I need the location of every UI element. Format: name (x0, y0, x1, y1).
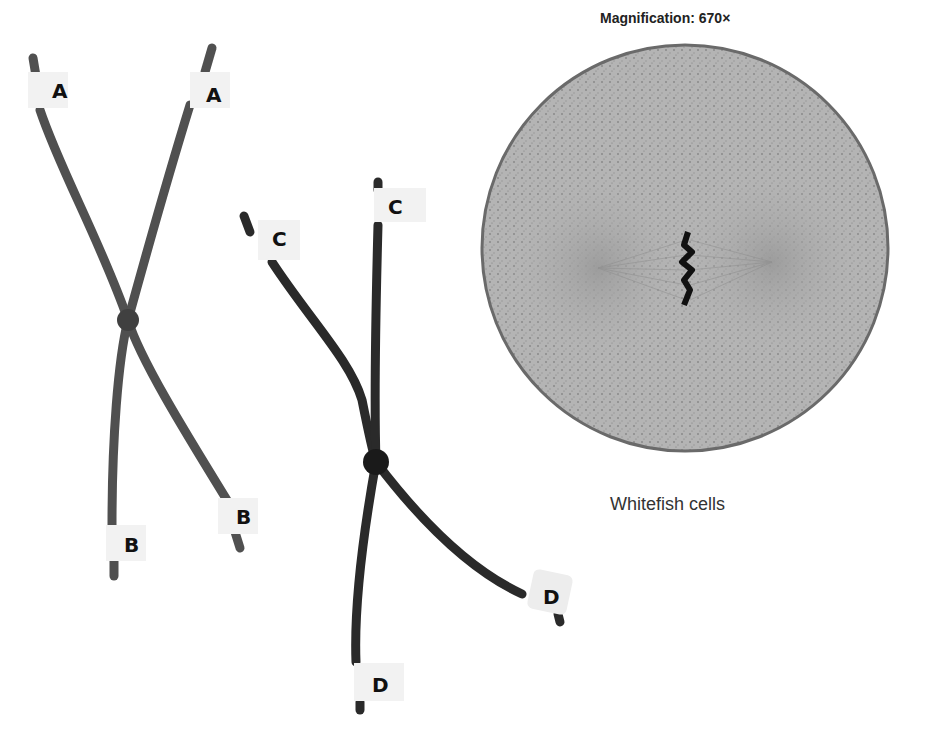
tag-d-bottom: D (354, 663, 404, 701)
figure: Magnification: 670× A A (0, 0, 927, 742)
tag-c-left: C (258, 220, 300, 260)
chromosome-ab (33, 48, 240, 576)
tag-b-right: B (218, 498, 258, 534)
tag-a-right: A (190, 72, 230, 108)
svg-text:A: A (52, 79, 68, 103)
tag-b-left: B (106, 525, 146, 561)
chromosome-diagram: A A B B C C D D (0, 0, 927, 742)
micrograph-caption: Whitefish cells (610, 494, 725, 515)
svg-text:B: B (236, 505, 251, 529)
tag-d-right: D (526, 568, 573, 615)
svg-text:A: A (206, 83, 222, 107)
svg-text:D: D (372, 673, 389, 697)
cell-micrograph (482, 45, 888, 451)
svg-text:C: C (272, 227, 287, 251)
svg-text:B: B (124, 533, 139, 557)
tag-a-left: A (28, 72, 68, 108)
svg-text:C: C (388, 195, 403, 219)
svg-text:D: D (543, 585, 560, 609)
tag-c-right: C (374, 188, 426, 222)
